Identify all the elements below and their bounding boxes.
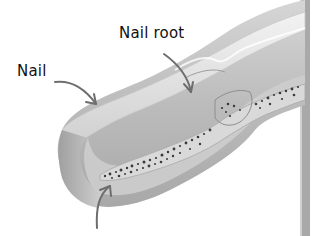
nail-root-label: Nail root: [119, 26, 184, 41]
nail-arrow: [55, 82, 96, 104]
nail-label: Nail: [17, 64, 47, 79]
